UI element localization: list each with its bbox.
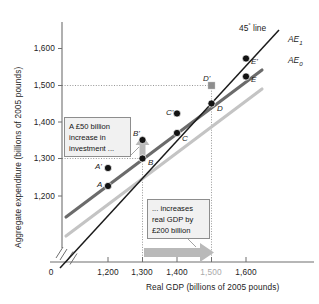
y-tick-label-1200: 1,200 xyxy=(20,191,55,201)
ae1-subscript: 1 xyxy=(299,39,302,46)
point-label-B: B xyxy=(148,158,153,167)
point-A xyxy=(104,182,111,189)
x-tick-label-1300: 1,300 xyxy=(125,267,159,277)
x-tick-label-1500: 1,500 xyxy=(194,267,228,277)
investment-callout-line3: investment ... xyxy=(69,143,126,154)
forty-five-degree-line-label: 45° line xyxy=(239,22,266,33)
y-tick-label-1500: 1,500 xyxy=(20,80,55,90)
point-C-prime xyxy=(173,110,180,117)
point-label-D-prime: D' xyxy=(203,74,210,83)
x-tick-label-1200: 1,200 xyxy=(91,267,125,277)
point-label-E: E xyxy=(251,75,256,84)
point-label-E-prime: E' xyxy=(251,57,258,66)
aggregate-expenditure-chart: 1,600 1,500 1,400 1,300 1,200 0 1,200 1,… xyxy=(0,0,319,304)
gdp-callout: ... increases real GDP by £200 billion xyxy=(147,199,210,239)
point-label-B-prime: B' xyxy=(133,129,140,138)
ae0-series-label: AE0 xyxy=(288,55,303,67)
line45-suffix: line xyxy=(251,23,266,33)
point-label-C-prime: C' xyxy=(166,108,173,117)
investment-callout-leader xyxy=(130,147,139,156)
point-label-A-prime: A' xyxy=(95,162,102,171)
ae0-base-label: AE xyxy=(288,55,299,65)
point-E xyxy=(242,73,249,80)
x-tick-label-1400: 1,400 xyxy=(160,267,194,277)
point-label-D: D xyxy=(217,104,223,113)
y-tick-label-1300: 1,300 xyxy=(20,153,55,163)
y-axis-title: Aggregate expenditure (billions of 2005 … xyxy=(13,67,23,248)
point-C xyxy=(173,129,180,136)
ae1-series-label: AE1 xyxy=(288,34,303,46)
investment-callout-line2: increase in xyxy=(69,132,126,143)
x-tick-label-1600: 1,600 xyxy=(229,267,263,277)
point-label-C: C xyxy=(182,134,188,143)
gdp-callout-line3: £200 billion xyxy=(152,225,205,236)
y-tick-label-1400: 1,400 xyxy=(20,117,55,127)
gdp-increase-arrow xyxy=(144,243,214,262)
investment-callout-line1: A £50 billion xyxy=(69,121,126,132)
x-tick-label-0: 0 xyxy=(40,267,62,277)
point-D xyxy=(208,100,215,107)
gdp-callout-line1: ... increases xyxy=(152,203,205,214)
point-B xyxy=(139,155,146,162)
x-axis-title: Real GDP (billions of 2005 pounds) xyxy=(146,282,279,292)
ae0-subscript: 0 xyxy=(299,60,302,67)
point-label-A: A xyxy=(97,180,102,189)
point-A-prime xyxy=(104,164,111,171)
y-tick-label-1600: 1,600 xyxy=(20,43,55,53)
ae1-base-label: AE xyxy=(288,34,299,44)
point-E-prime xyxy=(242,55,249,62)
gdp-callout-line2: real GDP by xyxy=(152,214,205,225)
line45-number: 45 xyxy=(239,23,248,33)
investment-callout: A £50 billion increase in investment ... xyxy=(64,117,131,157)
